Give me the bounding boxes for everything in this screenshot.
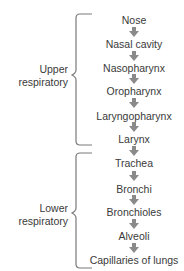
group-label-line: respiratory: [2, 215, 68, 228]
node-alveoli: Alveoli: [84, 230, 184, 242]
group-label-line: respiratory: [2, 76, 68, 89]
node-trachea: Trachea: [84, 157, 184, 169]
down-arrow-icon: [128, 195, 140, 205]
node-oropharynx: Oropharynx: [84, 85, 184, 97]
down-arrow-icon: [128, 122, 140, 132]
down-arrow-icon: [128, 27, 140, 37]
node-laryngopharynx: Laryngopharynx: [84, 110, 184, 122]
group-label-line: Lower: [2, 202, 68, 215]
node-capillaries-of-lungs: Capillaries of lungs: [84, 254, 184, 266]
group-label-lower-respiratory: Lower respiratory: [2, 202, 68, 228]
node-nasal-cavity: Nasal cavity: [84, 38, 184, 50]
down-arrow-icon: [128, 243, 140, 253]
node-larynx: Larynx: [84, 133, 184, 145]
down-arrow-icon: [128, 219, 140, 229]
upper-respiratory-brace: [72, 14, 92, 145]
group-label-line: Upper: [2, 63, 68, 76]
node-nose: Nose: [84, 14, 184, 26]
down-arrow-icon: [128, 51, 140, 61]
down-arrow-icon: [128, 171, 140, 181]
down-arrow-icon: [128, 74, 140, 84]
node-bronchi: Bronchi: [84, 183, 184, 195]
node-nasopharynx: Nasopharynx: [84, 62, 184, 74]
down-arrow-icon: [128, 98, 140, 108]
node-bronchioles: Bronchioles: [84, 206, 184, 218]
down-arrow-icon: [128, 146, 140, 156]
group-label-upper-respiratory: Upper respiratory: [2, 63, 68, 89]
respiratory-pathway-diagram: Upper respiratory Lower respiratory Nose…: [0, 0, 184, 271]
